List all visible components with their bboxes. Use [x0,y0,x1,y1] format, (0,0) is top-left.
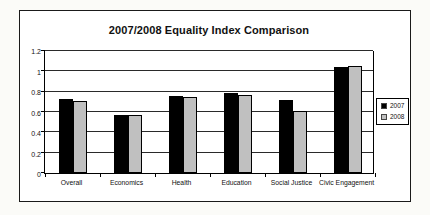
y-axis-tick [41,152,45,153]
bar-2008-economics [128,115,142,173]
legend-label-2008: 2008 [390,114,404,121]
x-axis: OverallEconomicsHealthEducationSocial Ju… [44,179,374,191]
y-axis-tick [41,91,45,92]
bar-2007-health [169,96,183,173]
chart-frame: 2007/2008 Equality Index Comparison 00.2… [19,10,411,202]
y-axis: 00.20.40.60.811.2 [20,51,41,174]
bar-2007-economics [114,115,128,173]
bar-2008-health [183,97,197,173]
y-axis-tick [41,131,45,132]
x-axis-tick [155,173,156,177]
legend-swatch-2008 [381,114,387,120]
y-axis-tick [41,111,45,112]
y-axis-tick-label: 1 [20,68,41,75]
y-axis-tick-label: 0 [20,171,41,178]
bar-2008-overall [73,101,87,173]
y-axis-tick-label: 0.2 [20,150,41,157]
x-axis-label-overall: Overall [44,179,99,187]
y-axis-tick-label: 0.8 [20,89,41,96]
x-axis-tick [45,173,46,177]
plot-area [44,51,374,174]
legend-item-2007: 2007 [381,103,404,110]
legend-swatch-2007 [381,103,387,109]
y-axis-tick-label: 0.6 [20,109,41,116]
bar-2008-civic-engagement [348,66,362,173]
chart-title: 2007/2008 Equality Index Comparison [44,24,374,36]
x-axis-label-civic-engagement: Civic Engagement [319,179,374,187]
legend: 20072008 [376,98,409,125]
y-axis-tick-label: 1.2 [20,48,41,55]
x-axis-tick [210,173,211,177]
y-axis-tick [41,70,45,71]
x-axis-label-social-justice: Social Justice [264,179,319,187]
x-axis-label-economics: Economics [99,179,154,187]
x-axis-tick [320,173,321,177]
bar-2007-education [224,93,238,173]
gridline-0.6 [45,111,373,112]
x-axis-tick [375,173,376,177]
x-axis-label-health: Health [154,179,209,187]
y-axis-tick-label: 0.4 [20,130,41,137]
bar-2008-education [238,95,252,173]
bar-2008-social-justice [293,111,307,173]
scanned-page: 2007/2008 Equality Index Comparison 00.2… [0,0,430,215]
bar-2007-overall [59,99,73,173]
legend-label-2007: 2007 [390,103,404,110]
x-axis-tick [265,173,266,177]
bar-2007-civic-engagement [334,67,348,173]
gridline-0.8 [45,91,373,92]
gridline-1 [45,70,373,71]
y-axis-tick [41,50,45,51]
x-axis-tick [100,173,101,177]
gridline-1.2 [45,50,373,51]
gridline-0.2 [45,152,373,153]
gridline-0.4 [45,131,373,132]
legend-item-2008: 2008 [381,114,404,121]
bar-2007-social-justice [279,100,293,173]
x-axis-label-education: Education [209,179,264,187]
